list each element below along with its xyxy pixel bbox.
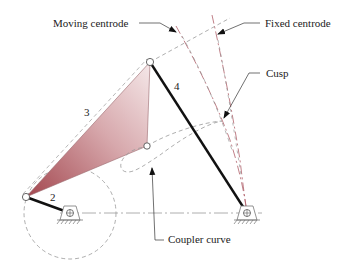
link-number-3: 3 (84, 106, 90, 118)
link-number-4: 4 (174, 80, 180, 92)
linkage-diagram: 2 3 4 Moving centrode Fixed centrode Cus… (0, 0, 352, 279)
moving-centrode-gray (182, 36, 232, 150)
link-number-2: 2 (50, 191, 56, 203)
leader-fixed-centrode (218, 23, 260, 34)
label-cusp: Cusp (266, 67, 289, 79)
rocker-link (150, 62, 247, 213)
joint-a (22, 193, 29, 200)
leader-cusp (224, 73, 260, 118)
label-fixed-centrode: Fixed centrode (265, 17, 331, 29)
label-moving-centrode: Moving centrode (53, 17, 129, 29)
coupler-link (26, 62, 150, 197)
joint-b (146, 58, 153, 65)
leader-moving-centrode (139, 23, 176, 32)
leader-coupler-curve (152, 168, 164, 240)
ground-pivot-o4 (234, 206, 260, 224)
label-coupler-curve: Coupler curve (168, 233, 231, 245)
joint-c (144, 143, 150, 149)
